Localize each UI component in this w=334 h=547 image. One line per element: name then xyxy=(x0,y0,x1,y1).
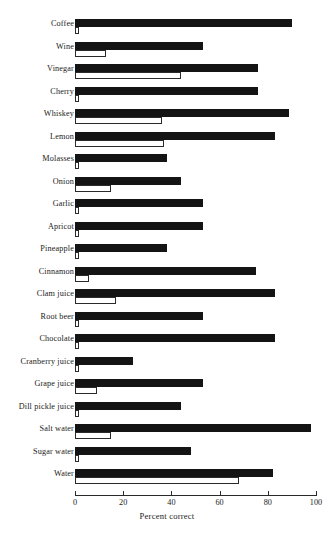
axis-tick-label: 0 xyxy=(60,498,90,508)
category-label: Apricot xyxy=(0,222,74,232)
chart-row: Lemon xyxy=(0,132,334,154)
category-label: Cinnamon xyxy=(0,267,74,277)
bar-filled xyxy=(75,312,203,320)
bar-filled xyxy=(75,109,289,117)
bar-outline xyxy=(75,117,162,124)
bar-outline xyxy=(75,95,79,102)
chart-row: Pineapple xyxy=(0,244,334,266)
bar-outline xyxy=(75,410,79,417)
category-label: Lemon xyxy=(0,132,74,142)
bar-outline xyxy=(75,252,79,259)
bar-outline xyxy=(75,432,111,439)
chart-row: Cherry xyxy=(0,87,334,109)
bar-filled xyxy=(75,379,203,387)
chart-row: Cranberry juice xyxy=(0,357,334,379)
chart-row: Root beer xyxy=(0,312,334,334)
bar-filled xyxy=(75,357,133,365)
chart-row: Dill pickle juice xyxy=(0,402,334,424)
bar-outline xyxy=(75,230,79,237)
bar-filled xyxy=(75,177,181,185)
category-label: Clam juice xyxy=(0,289,74,299)
bar-filled xyxy=(75,64,258,72)
bar-outline xyxy=(75,275,89,282)
bar-outline xyxy=(75,320,79,327)
bar-filled xyxy=(75,132,275,140)
axis-tick xyxy=(220,491,221,495)
bar-chart: CoffeeWineVinegarCherryWhiskeyLemonMolas… xyxy=(0,0,334,547)
bar-outline xyxy=(75,455,79,462)
axis-tick xyxy=(123,491,124,495)
bar-outline xyxy=(75,477,239,484)
bar-outline xyxy=(75,50,106,57)
bar-filled xyxy=(75,154,167,162)
axis-tick xyxy=(75,491,76,496)
chart-row: Garlic xyxy=(0,199,334,221)
category-label: Wine xyxy=(0,42,74,52)
x-axis-title: Percent correct xyxy=(0,511,334,521)
chart-row: Molasses xyxy=(0,154,334,176)
category-label: Garlic xyxy=(0,199,74,209)
chart-row: Vinegar xyxy=(0,64,334,86)
bar-outline xyxy=(75,185,111,192)
bar-filled xyxy=(75,289,275,297)
category-label: Water xyxy=(0,469,74,479)
chart-row: Wine xyxy=(0,42,334,64)
bar-filled xyxy=(75,469,273,477)
bar-outline xyxy=(75,72,181,79)
bar-outline xyxy=(75,207,79,214)
category-label: Chocolate xyxy=(0,334,74,344)
axis-tick-label: 40 xyxy=(156,498,186,508)
category-label: Dill pickle juice xyxy=(0,402,74,412)
bar-filled xyxy=(75,87,258,95)
bar-filled xyxy=(75,42,203,50)
axis-tick xyxy=(268,491,269,495)
category-label: Grape juice xyxy=(0,379,74,389)
bar-filled xyxy=(75,199,203,207)
axis-tick-label: 20 xyxy=(108,498,138,508)
bar-filled xyxy=(75,334,275,342)
axis-tick-label: 60 xyxy=(205,498,235,508)
bar-filled xyxy=(75,402,181,410)
bar-filled xyxy=(75,424,311,432)
category-label: Pineapple xyxy=(0,244,74,254)
category-label: Onion xyxy=(0,177,74,187)
bar-outline xyxy=(75,342,79,349)
chart-row: Cinnamon xyxy=(0,267,334,289)
chart-row: Coffee xyxy=(0,19,334,41)
category-label: Cherry xyxy=(0,87,74,97)
category-label: Whiskey xyxy=(0,109,74,119)
bar-outline xyxy=(75,27,79,34)
plot-area: CoffeeWineVinegarCherryWhiskeyLemonMolas… xyxy=(0,0,334,547)
bar-outline xyxy=(75,140,164,147)
axis-baseline xyxy=(75,495,316,496)
bar-filled xyxy=(75,19,292,27)
bar-outline xyxy=(75,365,79,372)
chart-row: Chocolate xyxy=(0,334,334,356)
chart-row: Onion xyxy=(0,177,334,199)
bar-filled xyxy=(75,447,191,455)
category-label: Cranberry juice xyxy=(0,357,74,367)
chart-row: Grape juice xyxy=(0,379,334,401)
bar-filled xyxy=(75,222,203,230)
category-label: Sugar water xyxy=(0,447,74,457)
category-label: Molasses xyxy=(0,154,74,164)
category-label: Coffee xyxy=(0,19,74,29)
chart-row: Clam juice xyxy=(0,289,334,311)
chart-row: Water xyxy=(0,469,334,491)
axis-tick-label: 100 xyxy=(301,498,331,508)
axis-tick xyxy=(171,491,172,495)
bar-filled xyxy=(75,244,167,252)
category-label: Vinegar xyxy=(0,64,74,74)
axis-tick xyxy=(316,491,317,496)
category-label: Salt water xyxy=(0,424,74,434)
bar-outline xyxy=(75,162,79,169)
chart-row: Salt water xyxy=(0,424,334,446)
chart-row: Sugar water xyxy=(0,447,334,469)
chart-row: Whiskey xyxy=(0,109,334,131)
axis-tick-label: 80 xyxy=(253,498,283,508)
category-label: Root beer xyxy=(0,312,74,322)
bar-outline xyxy=(75,387,97,394)
bar-outline xyxy=(75,297,116,304)
bar-filled xyxy=(75,267,256,275)
chart-row: Apricot xyxy=(0,222,334,244)
